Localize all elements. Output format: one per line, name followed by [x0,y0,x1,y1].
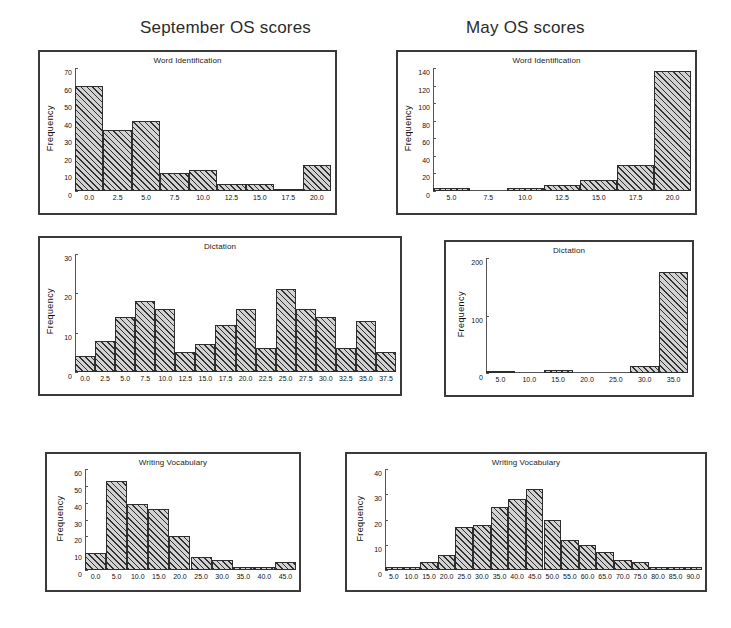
x-tick-label: 7.5 [483,194,493,201]
y-tick-label: 10 [374,545,385,552]
x-tick-label: 15.0 [592,194,606,201]
histogram-bar [614,560,632,570]
histogram-bar [630,366,659,373]
histogram-bar [233,567,254,570]
histogram-bar [376,352,396,372]
histogram-bar [191,557,212,570]
histogram-bar [95,341,115,372]
x-tick-label: 0.0 [80,375,90,382]
histogram-bar [106,481,127,570]
histogram-bar [103,130,131,192]
x-tick-label: 40.0 [510,573,524,580]
histogram-bar [75,86,103,191]
y-tick-label: 0 [479,374,486,381]
y-tick-label: 40 [74,503,85,510]
x-tick-label: 10.0 [131,573,145,580]
y-axis-label: Frequency [456,279,466,350]
y-tick-mark [433,68,436,69]
y-tick-label: 30 [374,495,385,502]
y-tick-label: 20 [64,294,75,301]
histogram-bar [75,356,95,372]
x-tick-label: 12.5 [225,194,239,201]
panel-title: Word Identification [40,56,335,65]
y-tick-label: 10 [64,333,75,340]
y-tick-label: 0 [78,571,85,578]
y-tick-label: 200 [471,259,486,266]
y-tick-label: 50 [64,104,75,111]
y-tick-label: 50 [74,486,85,493]
histogram-bar [115,317,135,372]
histogram-bar [127,504,148,570]
panel-title: Writing Vocabulary [47,458,299,467]
y-tick-mark [433,156,436,157]
x-tick-label: 5.0 [389,573,399,580]
x-tick-label: 30.0 [215,573,229,580]
x-tick-label: 32.5 [339,375,353,382]
y-tick-label: 30 [64,139,75,146]
x-tick-label: 20.0 [310,194,324,201]
y-tick-label: 100 [418,104,433,111]
y-tick-mark [75,333,78,334]
x-tick-label: 90.0 [686,573,700,580]
x-tick-label: 35.0 [359,375,373,382]
x-tick-label: 7.5 [170,194,180,201]
y-tick-mark [486,373,489,374]
histogram-bar [303,165,331,191]
x-tick-label: 10.0 [405,573,419,580]
x-tick-label: 45.0 [528,573,542,580]
histogram-bar [132,121,160,191]
x-tick-label: 10.0 [522,376,536,383]
histogram-bar [654,71,691,191]
histogram-bar [215,325,235,372]
y-tick-label: 0 [68,373,75,380]
panel-september-word-identification: Word IdentificationFrequency010203040506… [38,50,337,215]
y-tick-label: 0 [378,571,385,578]
y-tick-label: 10 [64,174,75,181]
histogram-bar [526,489,544,570]
histogram-bar [544,185,581,191]
histogram-bar [659,272,688,373]
x-tick-label: 20.0 [666,194,680,201]
x-tick-label: 55.0 [563,573,577,580]
y-axis-label: Frequency [45,90,55,166]
panel-september-writing-vocabulary: Writing VocabularyFrequency0102030405060… [45,452,301,592]
y-tick-mark [433,191,436,192]
x-tick-label: 20.0 [173,573,187,580]
histogram-bar [508,499,526,570]
histogram-bar [544,520,562,571]
y-tick-label: 120 [418,86,433,93]
y-tick-mark [85,503,88,504]
y-tick-mark [433,121,436,122]
x-tick-label: 10.0 [196,194,210,201]
histogram-bar [403,567,421,570]
x-tick-label: 35.0 [236,573,250,580]
y-tick-mark [85,469,88,470]
x-tick-label: 20.0 [580,376,594,383]
histogram-bar [667,567,685,570]
histogram-bar [135,301,155,372]
y-tick-label: 20 [422,174,433,181]
y-tick-label: 30 [64,255,75,262]
plot-area: 01002005.010.015.020.025.030.035.0 [486,258,688,373]
histogram-bar [507,188,544,192]
histogram-bar [433,188,470,191]
x-tick-label: 17.5 [282,194,296,201]
histogram-bar [275,562,296,570]
histogram-bar [217,184,245,191]
x-tick-label: 40.0 [258,573,272,580]
histogram-bar [486,371,515,374]
x-tick-label: 70.0 [616,573,630,580]
histogram-bar [274,189,302,192]
histogram-bar [617,165,654,191]
histogram-bar [580,180,617,191]
y-tick-label: 20 [64,156,75,163]
x-tick-label: 50.0 [545,573,559,580]
histogram-bar [276,289,296,372]
x-tick-label: 17.5 [219,375,233,382]
histogram-bar [296,309,316,372]
x-tick-label: 15.0 [152,573,166,580]
column-title-may: May OS scores [466,18,585,38]
panel-title: Dictation [40,242,400,251]
histogram-bar [438,555,456,570]
histogram-bar [148,509,169,570]
